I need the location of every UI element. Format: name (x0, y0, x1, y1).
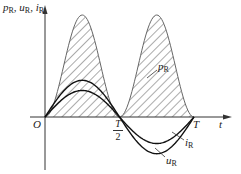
pR-label: pR (158, 61, 169, 74)
waveform-diagram (0, 0, 241, 174)
origin-label: O (33, 119, 41, 130)
iR-label: iR (185, 137, 193, 150)
x-axis-label: t (219, 119, 222, 130)
y-axis-label: pR, uR, iR (3, 2, 44, 15)
x-axis-arrow-icon (223, 115, 232, 120)
uR-label: uR (166, 155, 177, 168)
tick-label-period: T (193, 119, 199, 130)
power-area-hatch (45, 15, 194, 117)
tick-label-half-period: T 2 (113, 119, 123, 142)
